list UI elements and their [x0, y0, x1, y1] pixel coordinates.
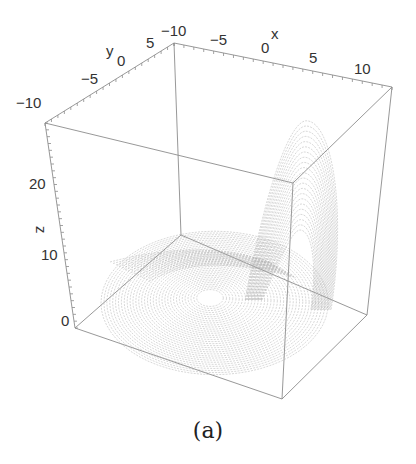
x-tick-label: 0: [261, 39, 269, 56]
y-tick-label: 0: [117, 52, 125, 69]
y-tick-label: 5: [146, 34, 154, 51]
x-tick-label: 5: [309, 49, 317, 66]
x-axis-label: x: [271, 25, 279, 42]
z-tick-label: 10: [41, 246, 58, 263]
y-axis-tick-labels: −10 −5 0 5 y: [16, 34, 154, 111]
z-axis-label: z: [33, 226, 50, 234]
z-tick-label: 0: [61, 312, 69, 329]
bounding-box: [45, 43, 392, 399]
x-tick-label: 10: [354, 60, 371, 77]
x-tick-label: −10: [161, 22, 186, 39]
x-axis-tick-labels: −10 −5 0 5 10 x: [161, 22, 371, 77]
y-tick-label: −10: [16, 94, 41, 111]
figure-caption: (a): [0, 418, 416, 443]
z-tick-label: 20: [29, 175, 46, 192]
y-tick-label: −5: [81, 70, 98, 87]
y-axis-label: y: [106, 42, 114, 59]
attractor-3d-plot: −10 −5 0 5 y −10 −5 0 5 10 x 20 10 0 z: [0, 0, 416, 464]
attractor-curve: [101, 121, 338, 375]
z-axis-tick-labels: 20 10 0 z: [29, 175, 69, 329]
x-tick-label: −5: [210, 31, 227, 48]
